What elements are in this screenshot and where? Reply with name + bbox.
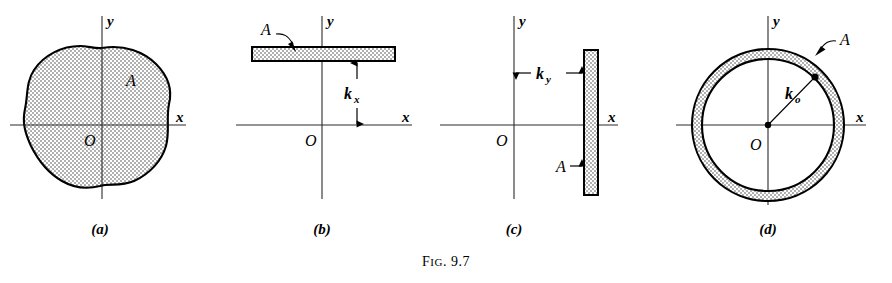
panel-label-c: (c) (506, 221, 523, 238)
figure-9-7: x y O A (a) A k x x y (0, 0, 892, 283)
panel-label-b: (b) (313, 221, 331, 238)
panel-b-k-subscript: x (353, 93, 360, 105)
figure-caption-text: FIG. 9.7 (422, 254, 470, 269)
figure-canvas: x y O A (a) A k x x y (0, 0, 892, 283)
panel-b-dimension-label: k x (344, 85, 360, 105)
panel-c-area-strip (584, 50, 598, 195)
caption-number: . 9.7 (443, 254, 470, 269)
panel-c-y-label: y (517, 13, 526, 29)
panel-c-k-subscript: y (544, 73, 551, 85)
panel-d-x-label: x (855, 109, 864, 125)
panel-a-origin-label: O (84, 132, 96, 149)
panel-b-x-label: x (401, 109, 410, 125)
panel-c-area-label: A (555, 158, 566, 175)
panel-d-origin-label: O (750, 136, 762, 153)
panel-a-x-label: x (175, 109, 184, 125)
caption-smallcaps: IG (430, 256, 443, 268)
panel-b-origin-label: O (305, 132, 317, 149)
panel-c-origin-label: O (496, 132, 508, 149)
caption-initial: F (422, 254, 430, 269)
panel-d-y-label: y (771, 13, 780, 29)
panel-b-area-strip (252, 47, 395, 61)
panel-b-y-label: y (325, 13, 334, 29)
panel-d-dimension-label: k o (785, 85, 801, 105)
panel-c-x-label: x (607, 109, 616, 125)
panel-c-k-symbol: k (536, 65, 544, 82)
panel-c: k y A x y O (c) (440, 13, 618, 238)
panel-d-area-leader (815, 41, 836, 56)
panel-a-area-label: A (125, 72, 136, 89)
panel-label-a: (a) (91, 221, 109, 238)
panel-b-area-label: A (260, 21, 271, 38)
panel-b-k-symbol: k (344, 85, 352, 102)
panel-d-k-subscript: o (795, 93, 801, 105)
panel-d-radius-endpoint-dot (811, 73, 818, 80)
panel-a-y-label: y (105, 13, 114, 29)
figure-caption: FIG. 9.7 (422, 254, 470, 269)
panel-d-area-label: A (839, 31, 850, 48)
panel-d-origin-dot (765, 122, 771, 128)
panel-b: A k x x y O (b) (236, 13, 412, 238)
panel-a: x y O A (a) (10, 13, 186, 238)
panel-d-k-symbol: k (785, 85, 793, 102)
panel-c-dimension-label: k y (536, 65, 551, 85)
panel-d: k o A x y O (d) (676, 13, 866, 238)
panel-label-d: (d) (759, 221, 777, 238)
panel-a-area-shape (24, 46, 170, 188)
